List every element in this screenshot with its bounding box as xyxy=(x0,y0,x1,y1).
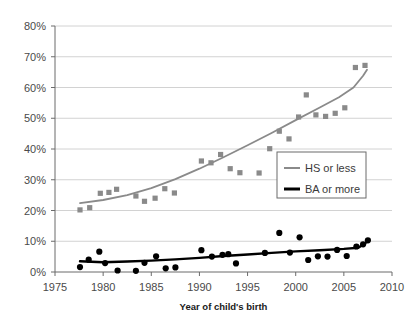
x-tick-label: 1975 xyxy=(43,281,67,293)
y-axis-tick-labels: 0%10%20%30%40%50%60%70%80% xyxy=(24,20,55,278)
legend-label: HS or less xyxy=(305,162,356,174)
data-point-marker xyxy=(360,241,366,247)
data-point-marker xyxy=(297,234,303,240)
data-point-marker xyxy=(342,105,347,110)
x-axis-title-label: Year of child's birth xyxy=(180,301,268,312)
data-point-marker xyxy=(208,160,213,165)
data-point-marker xyxy=(106,190,111,195)
y-tick-label: 60% xyxy=(24,82,46,94)
data-point-marker xyxy=(323,114,328,119)
data-point-marker xyxy=(115,267,121,273)
data-point-marker xyxy=(286,136,291,141)
data-point-marker xyxy=(162,186,167,191)
data-point-marker xyxy=(228,166,233,171)
scatter-plot: 0%10%20%30%40%50%60%70%80% 1975198019851… xyxy=(0,0,419,325)
x-tick-label: 2000 xyxy=(283,281,307,293)
chart-container: 0%10%20%30%40%50%60%70%80% 1975198019851… xyxy=(0,0,419,325)
data-point-marker xyxy=(233,260,239,266)
legend-box: HS or lessBA or more xyxy=(277,152,366,198)
series-ba-or-more xyxy=(77,230,371,274)
data-point-marker xyxy=(87,205,92,210)
legend-label: BA or more xyxy=(305,183,360,195)
data-point-marker xyxy=(353,243,359,249)
y-tick-label: 40% xyxy=(24,143,46,155)
data-point-marker xyxy=(365,237,371,243)
data-point-marker xyxy=(315,253,321,259)
y-tick-label: 10% xyxy=(24,235,46,247)
data-point-marker xyxy=(172,190,177,195)
data-point-marker xyxy=(163,265,169,271)
data-point-marker xyxy=(209,254,215,260)
x-tick-label: 2005 xyxy=(332,281,356,293)
x-tick-label: 1980 xyxy=(91,281,115,293)
data-point-marker xyxy=(96,249,102,255)
data-point-marker xyxy=(304,92,309,97)
data-point-marker xyxy=(98,191,103,196)
data-point-marker xyxy=(77,207,82,212)
data-point-marker xyxy=(218,152,223,157)
x-tick-label: 1995 xyxy=(235,281,259,293)
x-axis-title: Year of child's birth xyxy=(180,301,268,312)
data-point-marker xyxy=(77,264,83,270)
y-tick-label: 30% xyxy=(24,174,46,186)
data-point-marker xyxy=(333,111,338,116)
x-tick-label: 2010 xyxy=(380,281,404,293)
data-point-marker xyxy=(344,253,350,259)
data-point-marker xyxy=(334,247,340,253)
data-point-marker xyxy=(153,196,158,201)
data-point-marker xyxy=(133,268,139,274)
data-point-marker xyxy=(225,251,231,257)
data-point-marker xyxy=(362,63,367,68)
x-axis-tick-labels: 19751980198519901995200020052010 xyxy=(43,272,404,293)
data-point-marker xyxy=(153,253,159,259)
grid-lines xyxy=(55,26,392,241)
data-point-marker xyxy=(305,257,311,263)
data-point-marker xyxy=(133,193,138,198)
data-point-marker xyxy=(199,158,204,163)
data-point-marker xyxy=(267,146,272,151)
data-point-marker xyxy=(287,250,293,256)
y-tick-label: 0% xyxy=(30,266,46,278)
y-tick-label: 80% xyxy=(24,20,46,32)
data-point-marker xyxy=(219,252,225,258)
y-tick-label: 70% xyxy=(24,51,46,63)
data-point-marker xyxy=(198,247,204,253)
data-point-marker xyxy=(114,187,119,192)
data-point-marker xyxy=(172,264,178,270)
data-point-marker xyxy=(353,65,358,70)
data-point-marker xyxy=(257,170,262,175)
data-point-marker xyxy=(142,199,147,204)
y-tick-label: 50% xyxy=(24,112,46,124)
x-tick-label: 1985 xyxy=(139,281,163,293)
y-tick-label: 20% xyxy=(24,205,46,217)
x-tick-label: 1990 xyxy=(187,281,211,293)
data-point-marker xyxy=(276,230,282,236)
data-point-marker xyxy=(296,114,301,119)
data-point-marker xyxy=(86,257,92,263)
data-point-marker xyxy=(324,254,330,260)
data-point-marker xyxy=(102,260,108,266)
data-point-marker xyxy=(313,112,318,117)
data-point-marker xyxy=(262,250,268,256)
data-point-marker xyxy=(277,129,282,134)
data-point-marker xyxy=(141,260,147,266)
data-point-marker xyxy=(237,170,242,175)
